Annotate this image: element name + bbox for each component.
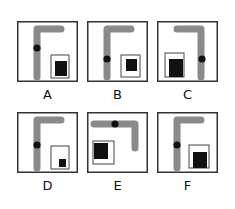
option-figure [87, 21, 148, 82]
black-square [169, 59, 183, 77]
dot-marker [103, 55, 110, 62]
option-a[interactable]: A [17, 21, 78, 82]
black-square [94, 143, 108, 159]
option-figure [17, 112, 78, 173]
option-label: B [87, 88, 148, 102]
option-figure [157, 112, 218, 173]
option-label: D [17, 179, 78, 193]
dot-marker [33, 141, 40, 148]
black-square [126, 59, 137, 71]
option-label: E [87, 179, 148, 193]
dot-marker [33, 44, 40, 51]
option-d[interactable]: D [17, 112, 78, 173]
dot-marker [198, 55, 205, 62]
option-figure [17, 21, 78, 82]
black-square [193, 152, 207, 168]
option-label: C [157, 88, 218, 102]
option-c[interactable]: C [157, 21, 218, 82]
option-figure [87, 112, 148, 173]
option-b[interactable]: B [87, 21, 148, 82]
option-label: A [17, 88, 78, 102]
dot-marker [173, 141, 180, 148]
option-e[interactable]: E [87, 112, 148, 173]
black-square [59, 159, 66, 167]
dot-marker [111, 120, 118, 127]
option-figure [157, 21, 218, 82]
option-f[interactable]: F [157, 112, 218, 173]
black-square [55, 61, 67, 76]
option-label: F [157, 179, 218, 193]
